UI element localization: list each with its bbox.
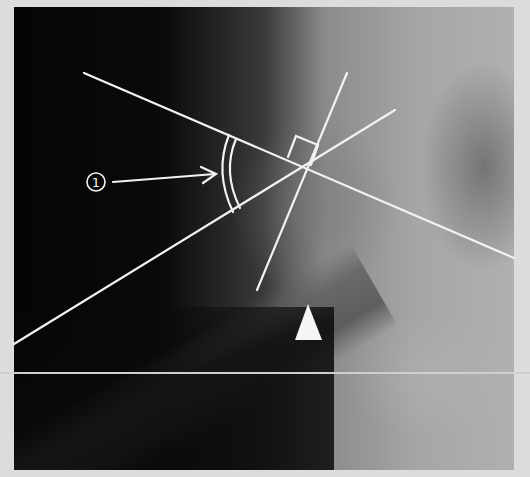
arrowhead-triangle-icon (295, 304, 322, 340)
arrow-shaft (113, 174, 215, 182)
reference-line (84, 73, 514, 258)
angle-arc-outer (222, 135, 233, 212)
callout-number: 1 (92, 175, 100, 190)
neck-axis-line (14, 110, 395, 344)
measurement-overlay: 1 (0, 0, 530, 477)
angle-arc-inner (230, 139, 240, 208)
right-angle-marker (288, 136, 318, 165)
image-frame: 1 (0, 0, 530, 477)
